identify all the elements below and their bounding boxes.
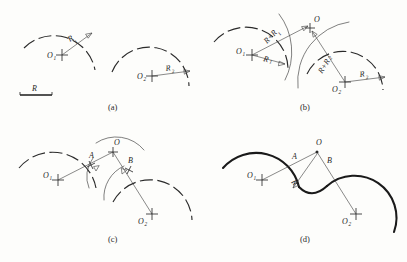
panel-a-arc-1 bbox=[24, 36, 95, 70]
panel-c-center-2-label: O bbox=[138, 217, 144, 226]
panel-c-center-1-subscript: 1 bbox=[49, 175, 52, 181]
panel-c-tangent-a-label: A bbox=[88, 151, 94, 160]
panel-b-intersection-mark bbox=[305, 23, 315, 33]
panel-b-sum-2-subscript: 2 bbox=[327, 55, 334, 61]
panel-d-connecting-curve bbox=[299, 186, 327, 193]
panel-c-construction-arc-3 bbox=[96, 137, 144, 150]
scale-bar-label: R bbox=[31, 84, 37, 93]
panel-c-center-2-subscript: 2 bbox=[144, 221, 147, 227]
panel-c-caption: (c) bbox=[108, 234, 118, 244]
panel-d-center-2-subscript: 2 bbox=[348, 221, 351, 227]
panel-c-center-2-mark bbox=[146, 208, 158, 220]
panel-d-center-2-label: O bbox=[342, 217, 348, 226]
panel-d-line-o-o2 bbox=[317, 152, 356, 214]
panel-a-center-2-label: O bbox=[137, 72, 143, 81]
panel-d-intersection-mark bbox=[316, 151, 319, 154]
scale-bar: R bbox=[20, 84, 52, 95]
panel-b-construction-arc-2 bbox=[298, 22, 349, 88]
panel-b-radius-2-label: R bbox=[358, 69, 365, 79]
panel-b-construction-arc-1 bbox=[279, 14, 292, 80]
panel-a-radius-2-subscript: 2 bbox=[171, 68, 175, 74]
panel-a-radius-2-label: R bbox=[164, 63, 171, 73]
panel-b-intersection-label: O bbox=[314, 15, 320, 24]
panel-d-arc-1 bbox=[223, 153, 299, 187]
panel-b-center-2-label: O bbox=[332, 85, 338, 94]
panel-c-intersection-label: O bbox=[114, 138, 120, 147]
panel-c-construction-arc-2 bbox=[104, 166, 124, 200]
panel-b-caption: (b) bbox=[300, 102, 310, 112]
panel-d-center-1-label: O bbox=[247, 171, 253, 180]
ogee-curve-construction-figure: O 1 R 1 O 2 R 2 R (a) O 1 bbox=[0, 0, 407, 262]
panel-b-sum-1-leader bbox=[252, 26, 308, 55]
panel-d-center-1-subscript: 1 bbox=[253, 175, 256, 181]
panel-c-tangent-b-label: B bbox=[128, 156, 133, 165]
panel-d-tangent-a-label: A bbox=[291, 152, 297, 161]
panel-a-arc-2 bbox=[112, 47, 189, 86]
panel-a-center-2-subscript: 2 bbox=[143, 76, 146, 82]
panel-c: O 1 A B O bbox=[19, 137, 192, 244]
panel-b-center-1-label: O bbox=[236, 47, 242, 56]
panel-b-radius-1-subscript: 1 bbox=[269, 58, 273, 65]
panel-c-center-1-label: O bbox=[43, 171, 49, 180]
panel-b: O 1 R 1 R+R 1 O 2 R 2 R+R 2 bbox=[214, 14, 385, 112]
panel-d: O 1 O 2 A B R O (d) bbox=[223, 138, 396, 244]
panel-a-center-1-subscript: 1 bbox=[53, 55, 56, 61]
panel-c-line-o1-o bbox=[58, 152, 113, 180]
panel-d-caption: (d) bbox=[300, 234, 310, 244]
panel-d-tangent-b-label: B bbox=[327, 156, 332, 165]
panel-c-intersection-mark bbox=[108, 147, 118, 157]
panel-a: O 1 R 1 O 2 R 2 R (a) bbox=[20, 33, 190, 112]
panel-a-caption: (a) bbox=[108, 102, 118, 112]
panel-b-radius-1-arrowhead bbox=[278, 61, 285, 66]
panel-d-intersection-label: O bbox=[316, 138, 322, 147]
panel-b-center-2-subscript: 2 bbox=[338, 89, 341, 95]
panel-c-arc-1 bbox=[19, 152, 96, 188]
panel-b-center-1-subscript: 1 bbox=[242, 51, 245, 57]
panel-b-radius-2-subscript: 2 bbox=[365, 74, 369, 80]
panel-c-arrow-a bbox=[94, 166, 100, 171]
panel-a-center-1-label: O bbox=[47, 51, 53, 60]
